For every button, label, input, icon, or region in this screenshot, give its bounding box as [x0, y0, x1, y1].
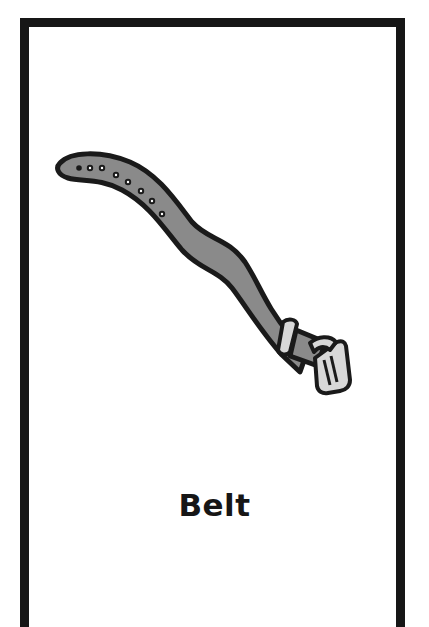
card-label: Belt — [0, 487, 429, 523]
belt-strap — [58, 154, 307, 372]
